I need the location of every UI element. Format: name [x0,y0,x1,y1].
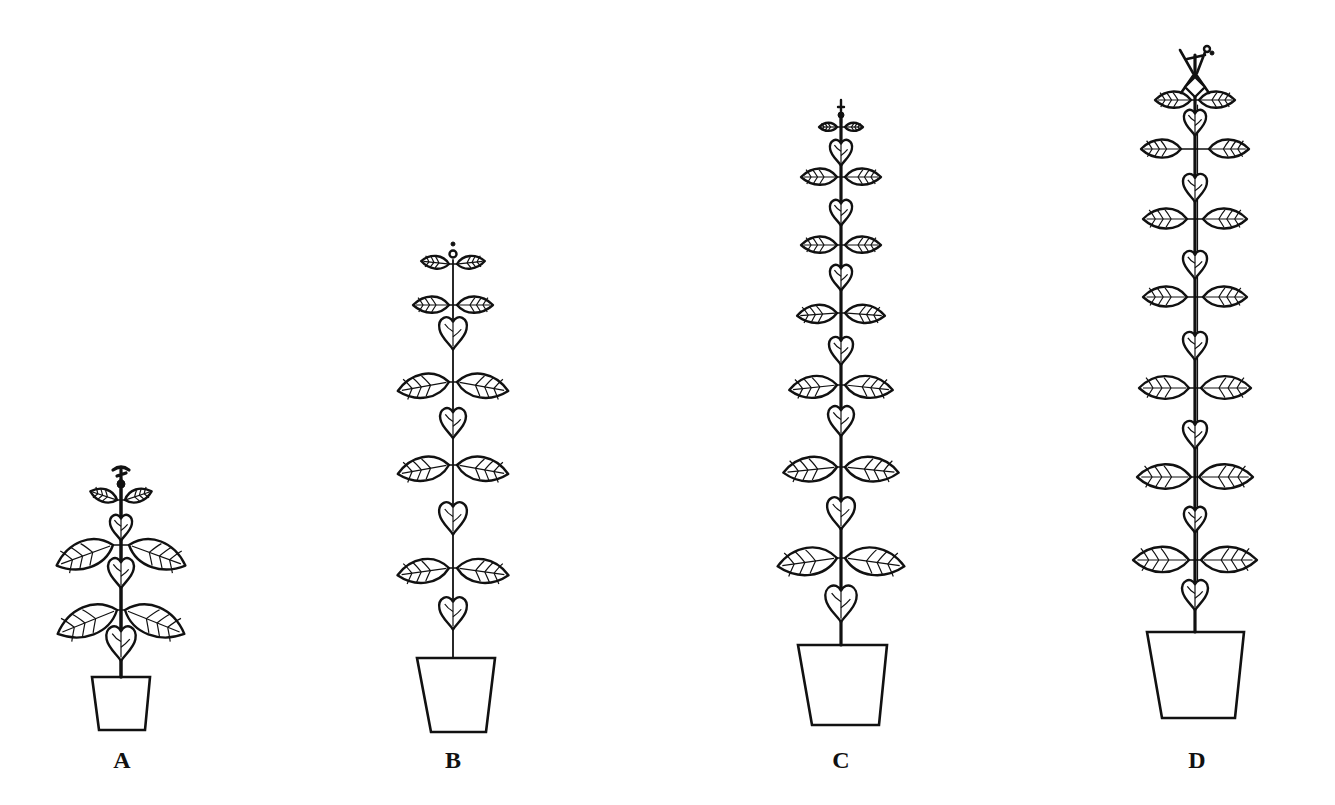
heart-leaf-icon [830,265,852,291]
leaf-icon [1203,209,1247,229]
leaf-icon [788,374,838,401]
heart-leaf-icon [440,408,466,438]
leaf-icon [457,296,493,312]
leaf-icon [455,453,510,485]
heart-leaf-icon [1184,507,1206,533]
leaf-icon [844,454,900,484]
heart-leaf-icon [828,406,854,436]
plant-label-d: D [1188,748,1205,772]
plant-label-b: B [445,748,461,772]
leaf-icon [801,168,837,184]
leaf-icon [455,556,510,587]
leaf-icon [1201,376,1251,399]
flower-pot [1147,632,1244,718]
heart-leaf-icon [1182,580,1208,610]
heart-leaf-icon [1183,421,1207,449]
heart-leaf-icon [439,317,467,349]
plant-b [396,242,511,732]
plant-label-c: C [832,748,849,772]
heart-leaf-icon [106,626,135,660]
heart-leaf-icon [110,515,132,541]
leaf-icon [845,168,881,184]
heart-leaf-icon [830,200,852,226]
heart-leaf-icon [829,337,853,365]
flower-pot [417,658,495,732]
leaf-icon [819,123,837,131]
leaf-icon [1199,91,1235,107]
plant-growth-figure: A B C D [0,0,1335,805]
leaf-icon [1143,287,1187,307]
leaf-icon [844,304,885,325]
leaf-icon [843,544,906,579]
leaf-icon [1155,91,1191,107]
leaf-icon [801,236,837,252]
heart-leaf-icon [1184,110,1206,136]
leaf-icon [1143,209,1187,229]
leaf-icon [845,123,863,131]
leaf-icon [396,370,451,402]
plants-drawing [0,0,1335,805]
plant-a [52,467,191,730]
leaf-icon [844,374,894,401]
leaf-icon [782,454,838,484]
leaf-icon [1203,287,1247,307]
leaf-icon [1209,140,1249,158]
heart-leaf-icon [439,502,467,534]
heart-leaf-icon [439,597,467,629]
leaf-icon [1139,376,1189,399]
leaf-icon [396,453,451,485]
plant-label-a: A [113,748,130,772]
leaf-icon [1133,547,1189,572]
heart-leaf-icon [827,497,855,529]
leaf-icon [123,485,154,506]
leaf-icon [1201,547,1257,572]
heart-leaf-icon [830,140,852,166]
leaf-icon [88,485,119,506]
flower-pot [798,645,887,725]
leaf-icon [413,296,449,312]
heart-leaf-icon [825,585,856,622]
heart-leaf-icon [108,558,134,588]
leaf-icon [845,236,881,252]
plant-c [776,100,907,725]
leaf-icon [456,254,485,270]
flower-pot [92,677,150,730]
leaf-icon [1199,464,1253,489]
leaf-icon [421,254,450,270]
plant-d [1133,46,1257,718]
heart-leaf-icon [1183,332,1207,360]
bud-icon [451,242,455,246]
heart-leaf-icon [1183,251,1207,279]
leaf-icon [776,544,839,579]
leaf-icon [396,556,451,587]
heart-leaf-icon [1183,174,1207,202]
leaf-icon [796,304,837,325]
leaf-icon [455,370,510,402]
leaf-icon [1137,464,1191,489]
leaf-icon [1141,140,1181,158]
